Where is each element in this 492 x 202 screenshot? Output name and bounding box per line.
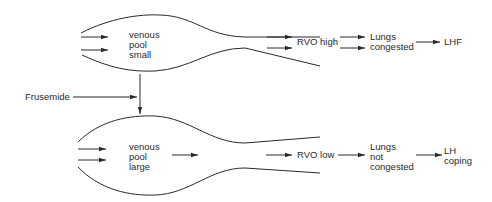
- lhf-label: LHF: [444, 37, 462, 47]
- lungs-congested-label: Lungscongested: [370, 32, 414, 52]
- label-line: small: [129, 49, 151, 60]
- rvo-low-label: RVO low: [297, 150, 334, 160]
- diagram-canvas: [0, 0, 492, 202]
- rvo-high-label: RVO high: [297, 37, 338, 47]
- bottom-vessel-upper-wall: [78, 116, 320, 143]
- top-venous-pool-label: venouspoolsmall: [129, 30, 160, 60]
- label-line: congested: [370, 41, 414, 52]
- label-line: coping: [444, 155, 472, 166]
- lungs-not-congested-label: Lungsnotcongested: [370, 142, 414, 172]
- label-line: large: [129, 161, 150, 172]
- lh-coping-label: LHcoping: [444, 146, 472, 166]
- top-vessel-upper-wall: [81, 15, 320, 37]
- label-line: congested: [370, 161, 414, 172]
- top-vessel-lower-wall: [82, 48, 320, 71]
- bottom-venous-pool-label: venouspoollarge: [129, 142, 160, 172]
- frusemide-label: Frusemide: [25, 92, 70, 102]
- bottom-vessel-lower-wall: [78, 167, 320, 195]
